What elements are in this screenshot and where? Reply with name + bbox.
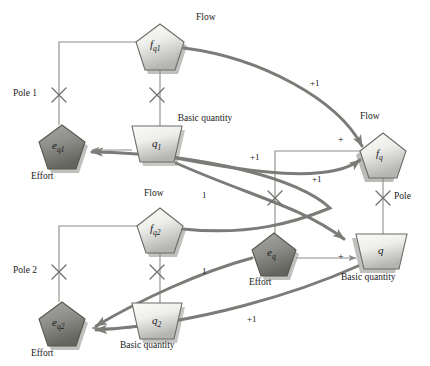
caption-effort-q: Effort (249, 278, 272, 288)
line-fq1-to-eq1 (59, 42, 136, 125)
gain-label-eq-fq: +1 (312, 175, 322, 184)
node-label-q-2: q2 (152, 315, 161, 329)
gain-label-q-eq2: +1 (247, 315, 257, 324)
node-f-q[interactable] (360, 133, 406, 178)
caption-flow-q2: Flow (144, 189, 164, 199)
pole-label-q: Pole (394, 192, 411, 202)
caption-effort-q2: Effort (31, 349, 54, 359)
caption-flow-q1: Flow (196, 13, 216, 23)
line-fq2-to-eq2 (59, 226, 137, 302)
caption-basic-quantity-q1: Basic quantity (174, 113, 236, 124)
node-label-f-q1: fq1 (150, 39, 161, 53)
gain-label-fq2-eq1: 1 (202, 191, 207, 200)
node-label-f-q: fq (376, 148, 383, 162)
curve-fq2-to-eq1 (92, 152, 330, 231)
node-label-q-1: q1 (152, 138, 161, 152)
diagram-canvas (0, 0, 430, 366)
gain-label-fq1-fq: +1 (310, 79, 320, 88)
caption-effort-q1: Effort (31, 172, 54, 182)
pole-label-2: Pole 2 (13, 266, 37, 276)
caption-flow-q: Flow (360, 112, 380, 122)
pole-marker-q2[interactable] (150, 265, 164, 279)
node-label-e-q: eq (267, 247, 276, 261)
node-label-q: q (378, 245, 384, 259)
sign-label-fq-input: + (338, 135, 344, 145)
node-label-f-q2: fq2 (150, 223, 161, 237)
node-shadows (42, 28, 403, 350)
thin-connection-lines (59, 42, 383, 328)
caption-basic-quantity-q: Basic quantity (341, 273, 396, 283)
nodes-layer (39, 24, 407, 346)
sign-label-q-input: + (338, 252, 344, 262)
gain-label-q1-eq1: +1 (250, 153, 260, 162)
gain-curves (92, 48, 362, 330)
pole-marker-q1[interactable] (150, 88, 164, 102)
node-label-e-q2: eq2 (52, 317, 64, 331)
pole-label-1: Pole 1 (13, 89, 37, 99)
curve-fq1-to-fq (184, 48, 362, 146)
gain-label-q2-eq2: 1 (202, 267, 207, 276)
curve-q-to-eq2 (96, 266, 358, 330)
node-label-e-q1: eq1 (52, 140, 64, 154)
caption-basic-quantity-q2: Basic quantity (120, 341, 175, 351)
